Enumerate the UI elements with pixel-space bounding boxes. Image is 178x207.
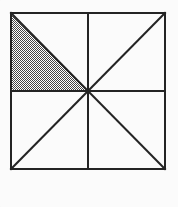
figure-container xyxy=(0,0,178,207)
shaded-square-diagram xyxy=(0,0,178,207)
figure-line-group xyxy=(11,13,165,169)
